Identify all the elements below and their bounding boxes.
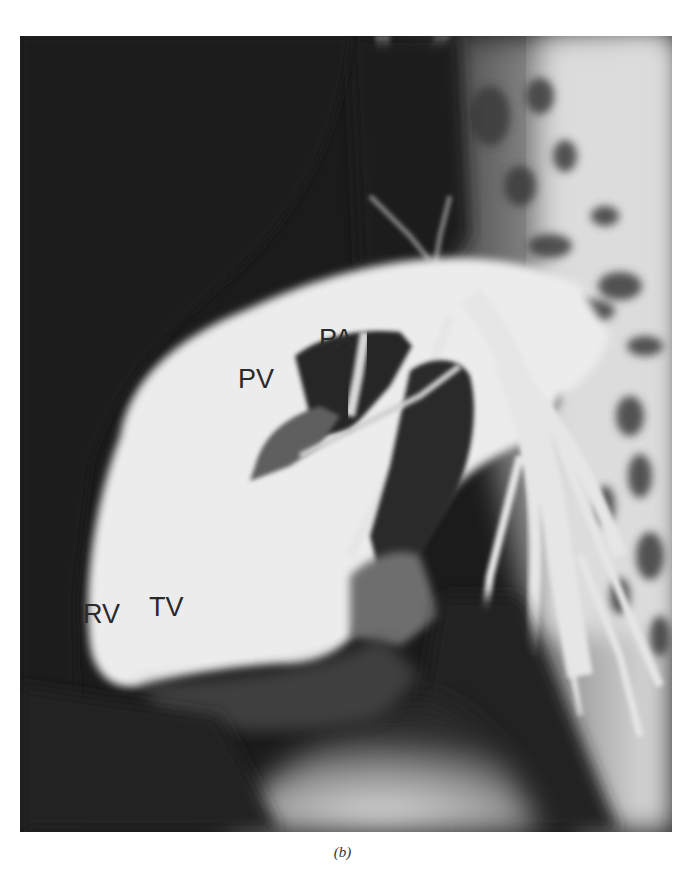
angiogram-drawing <box>20 36 672 832</box>
label-tv: TV <box>149 594 184 621</box>
label-pa: PA <box>319 326 353 353</box>
angiogram-figure: PA PV RV TV (b) <box>0 0 685 872</box>
label-pv: PV <box>238 366 274 393</box>
figure-caption: (b) <box>0 844 685 861</box>
angiogram-image: PA PV RV TV <box>20 36 672 832</box>
label-rv: RV <box>83 601 120 628</box>
